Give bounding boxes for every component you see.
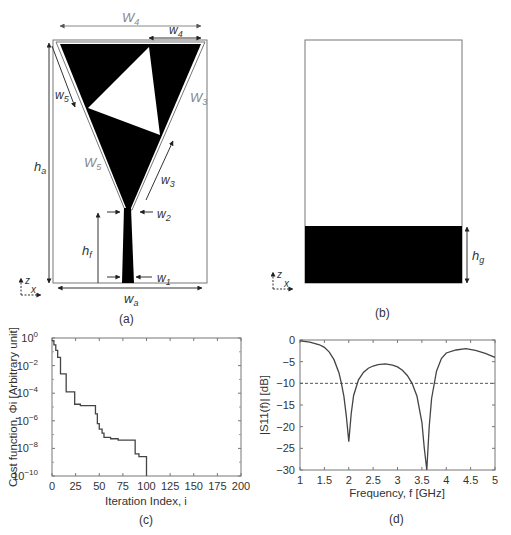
- ytick-label: 10−2: [17, 358, 39, 372]
- ytick-label: 10−4: [17, 385, 39, 399]
- ytick-label: −10: [276, 377, 295, 389]
- panel-a-antenna-top: W4 w4 ha w5 W5 W3 w3 w2 hf w1 wa: [21, 10, 207, 326]
- plot-frame-c: [52, 338, 241, 476]
- xtick-label: 1.5: [317, 474, 332, 486]
- ytick-label: 10−8: [17, 440, 39, 454]
- label-W5: W5: [84, 155, 102, 172]
- xtick-label: 100: [137, 480, 155, 492]
- label-wa: wa: [124, 291, 138, 308]
- ytick-label: −5: [282, 356, 295, 368]
- xtick-label: 75: [117, 480, 129, 492]
- ytick-label: −20: [276, 421, 295, 433]
- plot-frame-d: [300, 340, 495, 470]
- label-w1: w1: [157, 271, 171, 287]
- xtick-label: 2: [346, 474, 352, 486]
- chart-c-cost-function: 025507510012515017520010010−210−410−610−…: [7, 327, 250, 527]
- xtick-label: 50: [93, 480, 105, 492]
- label-w3: w3: [161, 173, 175, 189]
- ytick-label: 100: [21, 330, 38, 344]
- xtick-label: 1: [297, 474, 303, 486]
- caption-a: (a): [119, 312, 134, 326]
- xtick-label: 125: [161, 480, 179, 492]
- panel-b-ground-plane: hg z x (b): [273, 40, 484, 320]
- ylabel-c: Cost function, Φi [Arbitrary unit]: [7, 327, 19, 487]
- xtick-label: 2.5: [365, 474, 380, 486]
- ytick-label: 0: [289, 334, 295, 346]
- ytick-label: −15: [276, 399, 295, 411]
- xtick-label: 4.5: [463, 474, 478, 486]
- label-w5: w5: [55, 88, 70, 104]
- xtick-label: 150: [185, 480, 203, 492]
- series-cost: [52, 341, 147, 476]
- xlabel-c: Iteration Index, i: [105, 495, 187, 507]
- svg-text:x: x: [30, 284, 37, 295]
- label-hg: hg: [472, 248, 484, 265]
- xtick-label: 200: [232, 480, 250, 492]
- xtick-label: 5: [492, 474, 498, 486]
- ytick-label: 10−6: [17, 413, 39, 427]
- ticks-c: 025507510012515017520010010−210−410−610−…: [12, 330, 250, 492]
- xtick-label: 175: [208, 480, 226, 492]
- svg-text:z: z: [24, 275, 30, 286]
- label-hf: hf: [82, 243, 93, 260]
- ground-plane: [305, 226, 462, 283]
- series-s11: [300, 341, 495, 470]
- xtick-label: 3: [394, 474, 400, 486]
- xtick-label: 4: [443, 474, 449, 486]
- label-w2: w2: [157, 207, 171, 223]
- feed-line: [122, 208, 134, 283]
- chart-d-s11: 11.522.533.544.550−5−10−15−20−25−30 Freq…: [258, 334, 498, 526]
- xlabel-d: Frequency, f [GHz]: [349, 487, 445, 499]
- axis-triad-b: z x: [273, 269, 293, 289]
- xtick-label: 25: [70, 480, 82, 492]
- svg-text:z: z: [276, 269, 282, 280]
- caption-c: (c): [139, 513, 153, 527]
- ticks-d: 11.522.533.544.550−5−10−15−20−25−30: [276, 334, 498, 486]
- label-W3: W3: [190, 90, 207, 107]
- svg-text:x: x: [283, 278, 290, 289]
- xtick-label: 3.5: [414, 474, 429, 486]
- axis-triad-a: z x: [21, 275, 41, 295]
- label-ha: ha: [34, 159, 46, 176]
- label-W4-outer: W4: [122, 10, 139, 27]
- label-w4: w4: [169, 23, 183, 39]
- caption-b: (b): [375, 306, 390, 320]
- figure: W4 w4 ha w5 W5 W3 w3 w2 hf w1 wa: [0, 0, 511, 535]
- xtick-label: 0: [49, 480, 55, 492]
- ylabel-d: |S11(f)| [dB]: [258, 375, 270, 435]
- caption-d: (d): [389, 512, 404, 526]
- ytick-label: −25: [276, 442, 295, 454]
- ytick-label: −30: [276, 464, 295, 476]
